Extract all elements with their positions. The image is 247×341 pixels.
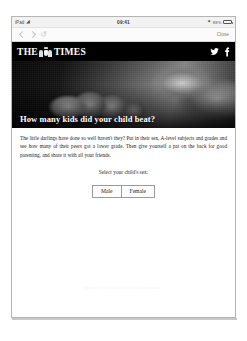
masthead-word-the: THE <box>17 47 38 57</box>
device-frame-shadow <box>12 318 237 320</box>
facebook-icon[interactable] <box>224 47 230 57</box>
royal-crest-icon <box>39 47 52 57</box>
sex-selector-prompt: Select your child's sex: <box>12 169 235 175</box>
chevron-right-icon[interactable] <box>27 29 38 40</box>
masthead-word-times: TIMES <box>54 47 86 57</box>
twitter-icon[interactable] <box>210 47 219 56</box>
site-masthead: THE TIMES <box>12 42 235 61</box>
chevron-left-icon[interactable] <box>16 29 27 40</box>
close-button[interactable]: Close <box>215 31 231 38</box>
battery-percent-label: 88% <box>213 20 222 25</box>
reload-icon[interactable]: ↻ <box>38 29 49 40</box>
battery-icon <box>223 20 232 25</box>
article-standfirst: The little darlings have done so well ha… <box>12 128 235 159</box>
status-bar-clock: 09:41 <box>12 20 235 25</box>
hero-image-block: How many kids did your child beat? <box>12 61 235 128</box>
tablet-device-frame: iPad ◢ 09:41 ✦ 88% ↻ Close THE <box>11 16 236 318</box>
bluetooth-icon: ✦ <box>207 20 211 25</box>
social-links <box>210 47 230 57</box>
sex-toggle-group: Male Female <box>92 185 155 198</box>
sex-option-female[interactable]: Female <box>121 186 154 197</box>
times-logo[interactable]: THE TIMES <box>17 47 86 57</box>
ios-status-bar: iPad ◢ 09:41 ✦ 88% <box>12 17 235 28</box>
sex-option-male[interactable]: Male <box>93 186 121 197</box>
status-bar-right: ✦ 88% <box>207 20 232 25</box>
browser-toolbar: ↻ Close <box>12 28 235 42</box>
page-title: How many kids did your child beat? <box>20 114 155 124</box>
source-note: Source: Joint Council for Qualifications <box>12 285 235 290</box>
sex-selector-block: Select your child's sex: Male Female <box>12 169 235 198</box>
